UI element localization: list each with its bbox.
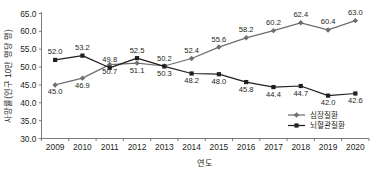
x-tick-label: 2018 — [291, 142, 310, 152]
data-point-label: 51.1 — [130, 66, 145, 75]
y-tick-label: 30.0 — [20, 134, 37, 144]
data-point-label: 49.8 — [102, 55, 117, 64]
data-point-marker — [271, 28, 276, 33]
data-labels-layer: 45.046.950.751.150.352.455.658.260.262.4… — [48, 8, 363, 107]
data-point-marker — [299, 84, 303, 88]
y-axis: 30.035.040.045.050.055.060.065.0 — [20, 9, 41, 144]
series-line — [55, 21, 355, 85]
x-tick-label: 2009 — [46, 142, 65, 152]
series-line — [55, 56, 355, 96]
x-axis-title: 연도 — [197, 159, 213, 168]
data-point-marker — [217, 72, 221, 76]
data-point-marker — [80, 54, 84, 58]
data-point-label: 46.9 — [75, 81, 90, 90]
data-point-marker — [294, 112, 299, 117]
data-point-label: 45.8 — [239, 85, 254, 94]
y-tick-label: 35.0 — [20, 116, 37, 126]
data-point-label: 48.0 — [212, 77, 227, 86]
data-point-marker — [298, 20, 303, 25]
data-point-label: 60.4 — [321, 17, 336, 26]
data-point-label: 58.2 — [239, 25, 254, 34]
data-point-label: 42.0 — [321, 98, 336, 107]
data-point-marker — [244, 80, 248, 84]
data-point-marker — [190, 71, 194, 75]
data-point-label: 50.7 — [102, 67, 117, 76]
x-tick-label: 2020 — [346, 142, 365, 152]
data-point-label: 52.5 — [130, 46, 145, 55]
chart-canvas: 30.035.040.045.050.055.060.065.0 2009201… — [0, 0, 376, 172]
x-tick-label: 2014 — [182, 142, 201, 152]
y-tick-label: 60.0 — [20, 26, 37, 36]
x-tick-label: 2016 — [237, 142, 256, 152]
y-axis-title: 사망률(인구 10만 명당 명) — [3, 29, 13, 123]
data-point-marker — [325, 27, 330, 32]
y-tick-label: 45.0 — [20, 80, 37, 90]
data-point-marker — [243, 35, 248, 40]
x-tick-label: 2019 — [319, 142, 338, 152]
data-point-label: 44.7 — [293, 89, 308, 98]
data-point-label: 60.2 — [266, 18, 281, 27]
x-tick-label: 2015 — [210, 142, 229, 152]
data-point-marker — [271, 85, 275, 89]
x-tick-label: 2012 — [128, 142, 147, 152]
y-tick-label: 40.0 — [20, 98, 37, 108]
data-point-label: 62.4 — [293, 10, 308, 19]
y-tick-label: 65.0 — [20, 9, 37, 19]
x-tick-label: 2010 — [73, 142, 92, 152]
data-point-marker — [135, 56, 139, 60]
y-tick-label: 50.0 — [20, 62, 37, 72]
data-point-marker — [353, 91, 357, 95]
data-point-marker — [53, 58, 57, 62]
x-tick-label: 2017 — [264, 142, 283, 152]
legend-item-label: 뇌혈관질환 — [310, 120, 345, 130]
series-layer — [52, 18, 358, 98]
data-point-marker — [189, 56, 194, 61]
data-point-label: 42.6 — [348, 96, 363, 105]
data-point-label: 50.2 — [157, 54, 172, 63]
data-point-label: 44.4 — [266, 90, 281, 99]
data-point-label: 52.0 — [48, 47, 63, 56]
legend-item-label: 심장질환 — [310, 110, 338, 120]
data-point-label: 63.0 — [348, 8, 363, 17]
data-point-label: 48.2 — [184, 76, 199, 85]
data-point-marker — [294, 123, 298, 127]
data-point-marker — [353, 18, 358, 23]
data-point-label: 55.6 — [212, 35, 227, 44]
data-point-marker — [326, 94, 330, 98]
data-point-label: 53.2 — [75, 43, 90, 52]
data-point-label: 50.3 — [157, 69, 172, 78]
data-point-label: 52.4 — [184, 46, 199, 55]
x-axis: 2009201020112012201320142015201620172018… — [42, 139, 370, 153]
chart-legend: 심장질환뇌혈관질환 — [288, 110, 345, 130]
data-point-marker — [216, 44, 221, 49]
series-1 — [52, 18, 358, 88]
x-tick-label: 2013 — [155, 142, 174, 152]
data-point-label: 45.0 — [48, 87, 63, 96]
y-tick-label: 55.0 — [20, 44, 37, 54]
line-chart: 30.035.040.045.050.055.060.065.0 2009201… — [0, 0, 376, 172]
series-2 — [53, 54, 357, 98]
x-tick-label: 2011 — [101, 142, 119, 152]
